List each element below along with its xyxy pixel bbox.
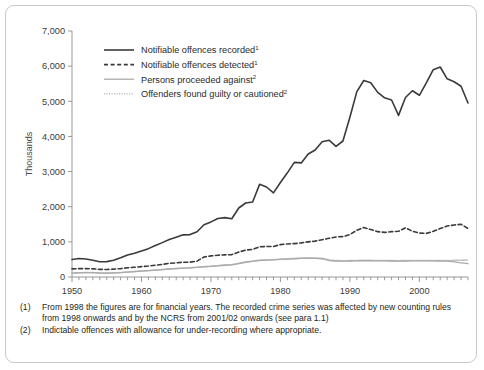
figure-panel: 01,0002,0003,0004,0005,0006,0007,000Thou…	[5, 5, 477, 363]
footnote-1-number: (1)	[20, 302, 42, 313]
x-tick-label: 2000	[409, 286, 429, 296]
y-tick-label: 3,000	[42, 167, 65, 177]
y-tick-label: 7,000	[42, 26, 65, 36]
legend-superscript-3: 2	[284, 89, 288, 95]
footnote-1: (1) From 1998 the figures are for financ…	[20, 302, 470, 325]
x-tick-label: 1950	[62, 286, 82, 296]
footnote-2-number: (2)	[20, 325, 42, 336]
legend-label-3: Offenders found guilty or cautioned2	[141, 89, 288, 99]
footnote-2-text: Indictable offences with allowance for u…	[42, 325, 470, 336]
x-tick-label: 1960	[131, 286, 151, 296]
legend-superscript-1: 1	[254, 60, 258, 66]
legend-label-0: Notifiable offences recorded1	[141, 45, 259, 55]
legend-superscript-0: 1	[255, 45, 259, 51]
y-tick-label: 4,000	[42, 132, 65, 142]
series-line-1	[72, 224, 468, 269]
x-tick-label: 1970	[201, 286, 221, 296]
y-tick-label: 6,000	[42, 61, 65, 71]
y-tick-label: 5,000	[42, 97, 65, 107]
x-tick-label: 1990	[340, 286, 360, 296]
chart-area: 01,0002,0003,0004,0005,0006,0007,000Thou…	[6, 6, 478, 306]
y-tick-label: 1,000	[42, 237, 65, 247]
y-tick-label: 0	[60, 272, 65, 282]
line-chart: 01,0002,0003,0004,0005,0006,0007,000Thou…	[6, 6, 478, 306]
y-tick-label: 2,000	[42, 202, 65, 212]
footnote-1-text: From 1998 the figures are for financial …	[42, 302, 470, 325]
footnote-2: (2) Indictable offences with allowance f…	[20, 325, 470, 336]
legend-label-2: Persons proceeded against2	[141, 74, 257, 84]
y-axis-title: Thousands	[24, 131, 34, 176]
x-tick-label: 1980	[270, 286, 290, 296]
legend-label-1: Notifiable offences detected1	[141, 60, 258, 70]
series-line-2	[72, 258, 468, 273]
legend-superscript-2: 2	[253, 74, 257, 80]
footnotes: (1) From 1998 the figures are for financ…	[20, 302, 470, 337]
